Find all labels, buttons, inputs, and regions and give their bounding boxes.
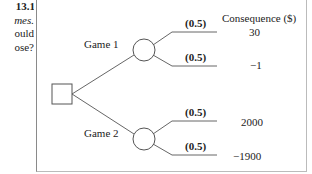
consequence-header: Consequence ($) [222, 12, 296, 24]
consequence-value: 30 [249, 26, 260, 38]
consequence-value: 2000 [241, 116, 263, 128]
consequence-value: −1 [250, 59, 262, 71]
branch-label-game-2: Game 2 [84, 127, 119, 139]
outcome-line-game-2-win [153, 121, 217, 134]
probability-label: (0.5) [185, 106, 206, 118]
probability-label: (0.5) [185, 17, 206, 29]
outcome-line-game-1-win [153, 32, 217, 45]
probability-label: (0.5) [185, 51, 206, 63]
consequence-value: −1900 [233, 150, 261, 162]
branch-line-game-1 [72, 55, 134, 94]
chance-node-game-2 [133, 128, 155, 150]
chance-node-game-1 [133, 39, 155, 61]
decision-tree [0, 0, 312, 174]
probability-label: (0.5) [185, 140, 206, 152]
branch-label-game-1: Game 1 [84, 38, 119, 50]
decision-node-square [52, 84, 72, 104]
